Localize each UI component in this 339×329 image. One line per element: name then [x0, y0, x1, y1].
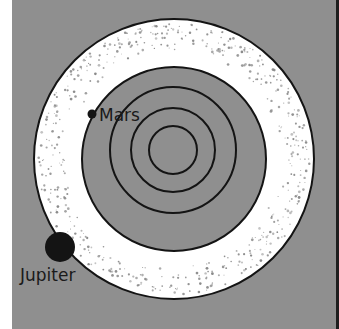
jupiter-planet-icon [45, 232, 75, 262]
belt-inner-edge [82, 67, 266, 251]
mars-planet-icon [88, 110, 97, 119]
left-margin [0, 0, 12, 329]
mars-label: Mars [99, 105, 140, 125]
asteroid-belt [34, 19, 314, 299]
solar-system-diagram: Mars Jupiter [0, 0, 339, 329]
jupiter-label: Jupiter [19, 265, 75, 285]
